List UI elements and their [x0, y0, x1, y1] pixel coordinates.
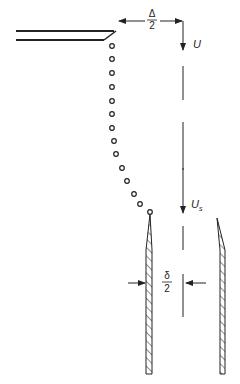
streamline-dot — [125, 179, 130, 184]
velocity-downstream-label: Us — [191, 198, 203, 212]
streamline-dot — [110, 57, 115, 62]
streamline-dot — [110, 99, 115, 104]
streamline-dot — [132, 192, 137, 197]
streamline-dot — [110, 126, 115, 131]
streamline-diagram: Δ 2 U Us δ 2 — [0, 0, 240, 384]
streamline-dot — [114, 152, 119, 157]
velocity-upstream-label: U — [193, 38, 201, 50]
streamline-dot — [110, 44, 115, 49]
streamline-dot — [110, 71, 115, 76]
half-gap-top-numerator: Δ — [149, 8, 156, 19]
streamline-dot — [112, 139, 117, 144]
streamline-dot — [110, 85, 115, 90]
half-gap-top-dimension: Δ 2 — [119, 8, 182, 31]
half-gap-bottom-numerator: δ — [164, 270, 170, 281]
streamline-dot — [138, 202, 143, 207]
right-lower-wall — [217, 218, 225, 374]
upper-plate — [16, 31, 116, 40]
half-gap-bottom-denominator: 2 — [164, 283, 170, 294]
half-gap-top-denominator: 2 — [149, 20, 155, 31]
streamline-dot — [120, 166, 125, 171]
streamline-dot — [148, 210, 153, 215]
half-gap-bottom-dimension: δ 2 — [128, 270, 206, 294]
free-streamline-dots — [110, 44, 153, 215]
streamline-dot — [110, 112, 115, 117]
left-lower-wall — [146, 214, 152, 374]
